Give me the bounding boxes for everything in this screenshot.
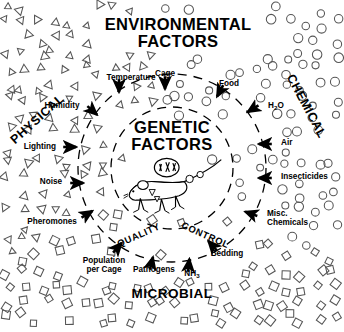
factor-label-pheromones: Pheromones <box>27 217 77 226</box>
quadrant-label-microbial: MICROBIAL <box>132 286 213 301</box>
factor-label-pathogens: Pathogens <box>133 265 175 274</box>
factor-label-insecticides: Insecticides <box>281 172 328 181</box>
factor-label-population: Population <box>83 256 125 265</box>
factor-arrow-nh3 <box>188 259 189 272</box>
environmental-genetic-factors-diagram: GENETIC FACTORS ENVIRONMENTAL FACTORS PH… <box>0 0 344 332</box>
diagram-canvas: GENETIC FACTORS ENVIRONMENTAL FACTORS PH… <box>0 0 344 332</box>
factor-label-temperature: Temperature <box>107 73 156 82</box>
page-title-line2: FACTORS <box>138 32 219 50</box>
center-title-line1: GENETIC <box>134 118 210 136</box>
factor-label-misc-chemicals-2: Chemicals <box>267 218 308 227</box>
center-title-line2: FACTORS <box>131 135 212 153</box>
factor-label-air: Air <box>281 138 293 147</box>
factor-label-lighting: Lighting <box>24 142 56 151</box>
factor-label-population-2: per Cage <box>86 265 121 274</box>
factor-label-humidity: Humidity <box>44 101 79 110</box>
factor-label-misc-chemicals: Misc. <box>267 209 287 218</box>
factor-label-noise: Noise <box>40 177 63 186</box>
page-title: ENVIRONMENTAL <box>105 15 252 33</box>
